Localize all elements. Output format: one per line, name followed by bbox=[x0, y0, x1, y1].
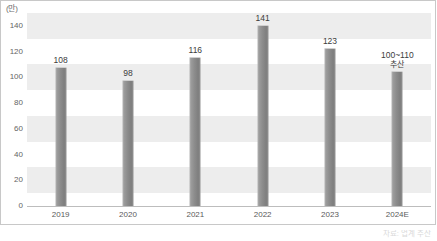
bar-slot: 98 bbox=[94, 13, 161, 206]
bar-slot: 116 bbox=[162, 13, 229, 206]
bar-value-label: 141 bbox=[256, 14, 270, 23]
source-caption: 자료: 업계 추산 bbox=[383, 230, 431, 239]
bar-slot: 141 bbox=[229, 13, 296, 206]
bar-2023[interactable] bbox=[324, 48, 335, 206]
bar-value-label: 98 bbox=[123, 69, 132, 78]
x-axis-tick-label: 2020 bbox=[119, 210, 137, 219]
bar-annotation-subtext: 추산 bbox=[381, 60, 414, 69]
y-axis-tick-label: 100 bbox=[10, 73, 23, 81]
y-axis-tick-label: 60 bbox=[14, 125, 23, 133]
y-axis-tick-label: 20 bbox=[14, 176, 23, 184]
bar-2020[interactable] bbox=[122, 80, 133, 206]
y-axis-tick-label: 120 bbox=[10, 48, 23, 56]
x-axis-tick-label: 2024E bbox=[386, 210, 409, 219]
x-axis-tick-label: 2021 bbox=[186, 210, 204, 219]
y-axis-tick-label: 140 bbox=[10, 22, 23, 30]
bar-value-label: 116 bbox=[189, 46, 203, 55]
bar-2019[interactable] bbox=[55, 67, 66, 206]
bar-slot: 100~110추산 bbox=[364, 13, 431, 206]
bar-2021[interactable] bbox=[190, 57, 201, 206]
y-axis-unit-label: (만) bbox=[6, 4, 18, 14]
caption-strip: 자료: 업계 추산 bbox=[0, 230, 437, 241]
bar-value-label: 123 bbox=[323, 37, 337, 46]
x-axis-tick-label: 2019 bbox=[52, 210, 70, 219]
bar-2022[interactable] bbox=[257, 25, 268, 206]
bar-value-text: 100~110 bbox=[381, 50, 414, 60]
y-axis-tick-label: 0 bbox=[19, 202, 23, 210]
bar-chart-figure: (만) 02040608010012014010898116141123100~… bbox=[0, 0, 437, 241]
x-axis-tick-label: 2023 bbox=[321, 210, 339, 219]
bar-value-label: 108 bbox=[54, 56, 68, 65]
x-axis-tick-label: 2022 bbox=[254, 210, 272, 219]
x-axis-line bbox=[27, 206, 431, 207]
bar-slot: 108 bbox=[27, 13, 94, 206]
plot-area: 02040608010012014010898116141123100~110추… bbox=[27, 13, 431, 206]
y-axis-tick-label: 80 bbox=[14, 99, 23, 107]
bar-value-label: 100~110추산 bbox=[381, 51, 414, 69]
y-axis-tick-label: 40 bbox=[14, 151, 23, 159]
bar-slot: 123 bbox=[296, 13, 363, 206]
bar-2024E[interactable] bbox=[392, 71, 403, 206]
